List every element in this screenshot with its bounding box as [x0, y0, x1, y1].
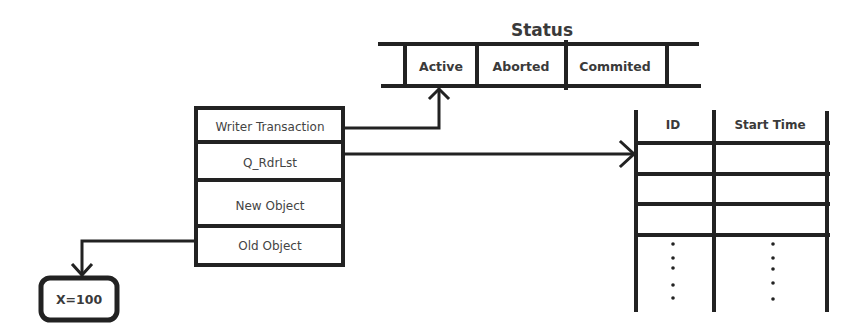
status-cell-commited: Commited [579, 59, 651, 74]
table-header-id: ID [666, 118, 680, 132]
field-old-object: Old Object [238, 239, 302, 253]
diagram-canvas: Status Active Aborted Commited Writer Tr… [0, 0, 863, 333]
arrow-readerlist-to-table [343, 142, 634, 166]
status-cell-aborted: Aborted [493, 59, 550, 74]
value-box-label: X=100 [56, 292, 103, 307]
field-q-rdrlst: Q_RdrLst [243, 156, 297, 170]
arrow-writer-to-status [343, 89, 448, 128]
field-writer-transaction: Writer Transaction [215, 120, 324, 134]
field-new-object: New Object [235, 199, 304, 213]
status-title: Status [511, 20, 573, 40]
reader-table [636, 112, 828, 310]
status-cell-active: Active [419, 59, 463, 74]
arrow-oldobject-to-value [73, 241, 196, 275]
table-header-start-time: Start Time [734, 118, 805, 132]
table-continuation-dots [671, 242, 775, 301]
